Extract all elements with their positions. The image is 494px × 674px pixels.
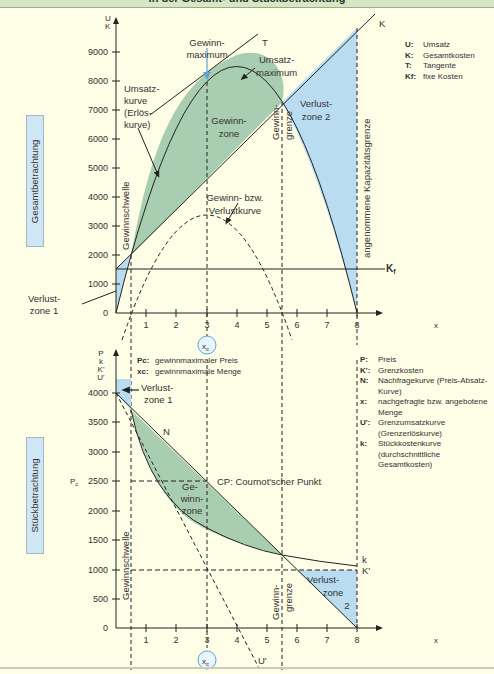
label-gewinnmaximum: Gewinn- bbox=[189, 37, 224, 48]
svg-text:zone: zone bbox=[323, 587, 344, 598]
label-k: K bbox=[379, 18, 386, 29]
y-axis-labels-bottom: P k K' U' bbox=[97, 349, 105, 382]
svg-text:5: 5 bbox=[264, 635, 269, 645]
label-verlustzone-1: Verlust- bbox=[28, 293, 60, 304]
svg-text:8: 8 bbox=[354, 635, 359, 645]
svg-text:zone: zone bbox=[219, 128, 240, 139]
svg-text:0: 0 bbox=[103, 308, 108, 318]
svg-text:6: 6 bbox=[294, 320, 299, 330]
note-item: Pc:gewinnmaximaler Preis bbox=[137, 356, 287, 367]
label-kprime: K' bbox=[362, 565, 370, 576]
svg-text:4000: 4000 bbox=[88, 192, 108, 202]
label-gewinngrenze-bottom: Gewinn- bbox=[270, 585, 281, 620]
svg-text:4: 4 bbox=[234, 635, 239, 645]
label-t: T bbox=[262, 37, 268, 48]
label-uprime: U' bbox=[258, 655, 267, 666]
legend-item: T:Tangente bbox=[405, 61, 493, 72]
x-axis-label-bottom: x bbox=[434, 636, 438, 645]
notes-bottom: Pc:gewinnmaximaler Preis xc:gewinnmaxima… bbox=[137, 356, 287, 377]
svg-text:2000: 2000 bbox=[88, 250, 108, 260]
svg-text:5: 5 bbox=[264, 320, 269, 330]
svg-text:6000: 6000 bbox=[88, 134, 108, 144]
svg-text:7000: 7000 bbox=[88, 105, 108, 115]
svg-text:zone 1: zone 1 bbox=[144, 394, 173, 405]
legend-item: P:Preis bbox=[360, 355, 492, 366]
label-umsatzmaximum-2: maximum bbox=[256, 67, 297, 78]
svg-text:2000: 2000 bbox=[88, 506, 108, 516]
svg-text:zone 1: zone 1 bbox=[30, 305, 59, 316]
label-umsatzmaximum: Umsatz- bbox=[259, 54, 294, 65]
svg-text:1000: 1000 bbox=[88, 565, 108, 575]
svg-text:3000: 3000 bbox=[88, 447, 108, 457]
label-gv-kurve: Gewinn- bzw. bbox=[206, 192, 263, 203]
x-tick-labels: 1 2 3 4 5 6 7 8 bbox=[143, 320, 359, 330]
chart-canvas: 0 1000 2000 3000 4000 5000 6000 7000 800… bbox=[0, 0, 494, 674]
svg-text:500: 500 bbox=[93, 594, 108, 604]
svg-text:2: 2 bbox=[344, 600, 349, 611]
label-umsatzkurve: Umsatz- bbox=[124, 83, 159, 94]
bottom-annotations: Verlust- zone 1 N CP: Cournot'scher Punk… bbox=[141, 382, 370, 666]
pc-label: Pc bbox=[70, 477, 78, 487]
y-tick-labels-bottom: 0 500 1000 1500 2000 2500 3000 3500 4000 bbox=[88, 388, 108, 633]
svg-text:8: 8 bbox=[354, 320, 359, 330]
svg-text:3: 3 bbox=[204, 635, 209, 645]
label-verlustzone-2-bottom: Verlust- bbox=[307, 574, 339, 585]
loss-zone-1-pointer bbox=[82, 291, 116, 304]
svg-text:9000: 9000 bbox=[88, 47, 108, 57]
svg-text:zone 2: zone 2 bbox=[302, 111, 331, 122]
label-gewinnzone: Gewinn- bbox=[211, 115, 246, 126]
label-gewinngrenze-top: Gewinn- bbox=[270, 105, 281, 140]
svg-text:kurve): kurve) bbox=[124, 119, 150, 130]
svg-text:(Erlös-: (Erlös- bbox=[124, 107, 152, 118]
svg-text:7: 7 bbox=[324, 635, 329, 645]
note-item: xc:gewinnmaximale Menge bbox=[137, 367, 287, 378]
y-axis-label-k: K bbox=[105, 22, 111, 31]
svg-text:U': U' bbox=[97, 373, 105, 382]
legend-item: k:Stückkostenkurve (durchschnittliche Ge… bbox=[360, 439, 492, 471]
svg-text:4000: 4000 bbox=[88, 388, 108, 398]
label-kapazitaetsgrenze: angenommene Kapazitätsgrenze bbox=[361, 119, 372, 258]
legend-item: x:nachgefragte bzw. angebotene Menge bbox=[360, 397, 492, 418]
svg-text:1500: 1500 bbox=[88, 535, 108, 545]
label-gewinnmaximum-2: maximum bbox=[186, 49, 227, 60]
svg-text:1000: 1000 bbox=[88, 279, 108, 289]
legend-bottom: P:Preis K':Grenzkosten N:Nachfragekurve … bbox=[360, 355, 492, 471]
svg-text:winn-: winn- bbox=[180, 493, 204, 504]
svg-text:6: 6 bbox=[294, 635, 299, 645]
label-kf: Kf bbox=[386, 263, 396, 275]
label-verlustzone-1-bottom: Verlust- bbox=[141, 382, 173, 393]
svg-text:2: 2 bbox=[173, 635, 178, 645]
x-axis-label: x bbox=[434, 321, 438, 330]
legend-top: U:Umsatz K:Gesamtkosten T:Tangente Kf:fi… bbox=[405, 40, 493, 82]
svg-text:kurve: kurve bbox=[124, 95, 147, 106]
svg-text:grenze: grenze bbox=[283, 111, 294, 140]
demand-curve-n bbox=[116, 393, 357, 628]
svg-text:8000: 8000 bbox=[88, 76, 108, 86]
label-gewinnzone-bottom: Ge- bbox=[182, 481, 198, 492]
x-tick-labels-bottom: 1 2 3 4 5 6 7 8 bbox=[143, 635, 359, 645]
label-n: N bbox=[163, 426, 170, 437]
svg-text:2: 2 bbox=[173, 320, 178, 330]
label-gewinnschwelle-bottom: Gewinnschwelle bbox=[120, 531, 131, 600]
svg-text:1: 1 bbox=[143, 320, 148, 330]
svg-text:3: 3 bbox=[204, 320, 209, 330]
svg-text:grenze: grenze bbox=[283, 583, 294, 612]
svg-text:Verlustkurve: Verlustkurve bbox=[209, 205, 261, 216]
legend-item: U:Umsatz bbox=[405, 40, 493, 51]
svg-text:7: 7 bbox=[324, 320, 329, 330]
label-verlustzone-2: Verlust- bbox=[300, 98, 332, 109]
legend-item: N:Nachfragekurve (Preis-Absatz-Kurve) bbox=[360, 376, 492, 397]
legend-item: U':Grenzumsatzkurve (Grenzerlöskurve) bbox=[360, 418, 492, 439]
bottom-divider bbox=[0, 667, 494, 669]
label-gewinnschwelle-top: Gewinnschwelle bbox=[120, 181, 131, 250]
svg-text:zone: zone bbox=[182, 505, 203, 516]
svg-text:2500: 2500 bbox=[88, 476, 108, 486]
label-k-bottom: k bbox=[362, 554, 367, 565]
svg-text:3500: 3500 bbox=[88, 417, 108, 427]
label-cp: CP: Cournot'scher Punkt bbox=[217, 476, 322, 487]
svg-text:0: 0 bbox=[103, 623, 108, 633]
y-tick-labels: 0 1000 2000 3000 4000 5000 6000 7000 800… bbox=[88, 47, 108, 318]
legend-item: K:Gesamtkosten bbox=[405, 51, 493, 62]
svg-text:3000: 3000 bbox=[88, 221, 108, 231]
svg-text:1: 1 bbox=[143, 635, 148, 645]
